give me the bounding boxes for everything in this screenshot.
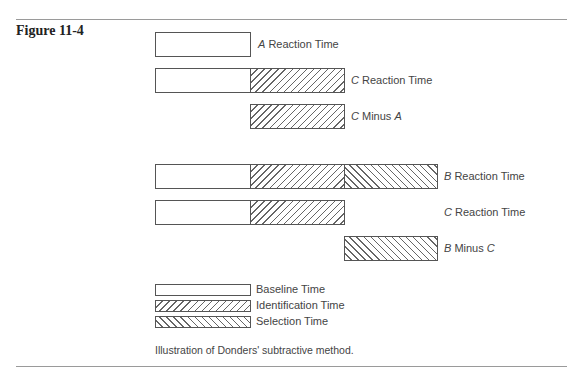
legend-label-baseline: Baseline Time	[256, 283, 325, 295]
row-label-c-reaction-2: C Reaction Time	[444, 206, 525, 218]
legend-swatch-identification	[155, 300, 251, 312]
legend-label-selection: Selection Time	[256, 315, 328, 327]
selection-segment	[344, 164, 438, 189]
row-label-b-reaction: B Reaction Time	[444, 170, 525, 182]
bottom-rule	[16, 366, 567, 367]
identification-segment	[250, 68, 345, 93]
baseline-segment	[155, 32, 251, 57]
figure-number: Figure 11-4	[16, 23, 84, 39]
baseline-segment	[155, 68, 251, 93]
identification-segment	[250, 104, 345, 129]
legend-label-identification: Identification Time	[256, 299, 345, 311]
legend-swatch-baseline	[155, 284, 251, 296]
row-label-c-minus-a: C Minus A	[351, 110, 402, 122]
identification-segment	[250, 200, 345, 225]
row-label-c-reaction: C Reaction Time	[351, 74, 432, 86]
baseline-segment	[155, 200, 251, 225]
identification-segment	[250, 164, 345, 189]
row-label-b-minus-c: B Minus C	[444, 242, 495, 254]
figure-caption: Illustration of Donders' subtractive met…	[155, 344, 354, 356]
row-label-a-reaction: A Reaction Time	[258, 38, 339, 50]
baseline-segment	[155, 164, 251, 189]
legend-swatch-selection	[155, 316, 251, 328]
top-rule	[16, 19, 567, 20]
selection-segment	[344, 236, 438, 261]
